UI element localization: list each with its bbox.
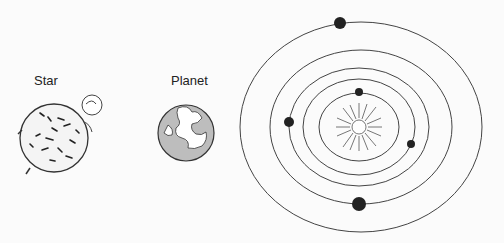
planet-dot [334,17,346,29]
planet-icon [158,105,214,161]
planets [284,17,415,211]
planet-dot [355,88,363,96]
planet-dot [284,117,294,127]
sun-icon [336,103,382,151]
planet-dot [352,197,366,211]
planet-dot [407,140,415,148]
diagram-canvas [0,0,504,243]
star-icon [18,95,102,174]
